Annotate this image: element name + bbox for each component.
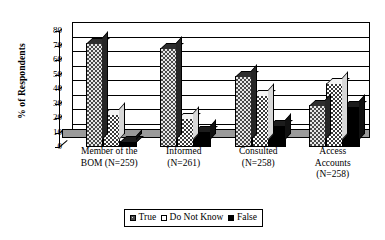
x-axis-category-line: Access xyxy=(284,146,383,158)
gridline xyxy=(72,22,370,23)
bar-side-face xyxy=(268,83,274,140)
bar xyxy=(309,105,326,147)
legend-label: True xyxy=(139,212,157,223)
bar xyxy=(160,48,177,147)
bar-side-face xyxy=(359,95,365,140)
axis-left-wall xyxy=(62,13,72,129)
bar xyxy=(86,43,103,147)
x-axis-category-line: Accounts xyxy=(284,158,383,170)
y-axis-ticks: 01020304050607080 xyxy=(34,0,62,240)
bar-side-face xyxy=(342,72,348,140)
y-axis-title: % of Respondents xyxy=(14,26,30,136)
legend-swatch-icon xyxy=(130,215,136,221)
legend-swatch-icon xyxy=(228,215,234,221)
bar-side-face xyxy=(102,31,108,140)
bar-side-face xyxy=(325,93,331,140)
legend-item[interactable]: Do Not Know xyxy=(161,212,223,223)
bar xyxy=(235,76,252,147)
legend-swatch-icon xyxy=(161,215,167,221)
legend: TrueDo Not KnowFalse xyxy=(124,209,263,227)
legend-label: Do Not Know xyxy=(170,212,224,223)
bar-side-face xyxy=(251,64,257,140)
y-axis-line xyxy=(59,31,60,148)
bar-side-face xyxy=(119,102,125,140)
bar-chart: % of Respondents 01020304050607080 Membe… xyxy=(0,0,385,240)
x-axis-category-line: (N=258) xyxy=(284,169,383,181)
plot-area xyxy=(72,22,370,138)
x-axis-category-label: AccessAccounts(N=258) xyxy=(284,146,383,181)
legend-item[interactable]: True xyxy=(130,212,156,223)
legend-label: False xyxy=(237,212,257,223)
y-axis-title-text: % of Respondents xyxy=(17,43,27,119)
legend-item[interactable]: False xyxy=(228,212,257,223)
bar xyxy=(120,141,137,147)
bar-side-face xyxy=(176,37,182,140)
